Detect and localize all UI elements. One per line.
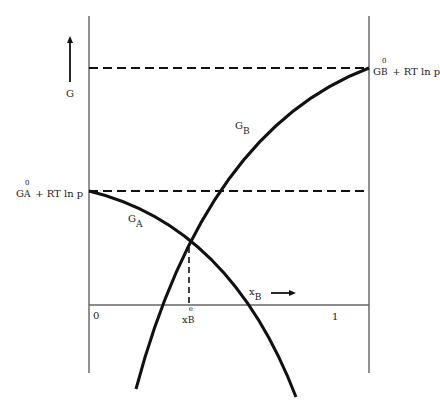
ref-a-suffix: + RT ln p <box>35 188 83 199</box>
ref-a-main: G <box>16 188 24 199</box>
curve-label-g-b: GB <box>235 121 250 131</box>
curve-b-sub: B <box>243 126 250 136</box>
tick-0: 0 <box>93 311 99 321</box>
eq-sup: e <box>189 306 193 313</box>
x-axis-symbol: x <box>249 286 255 297</box>
y-axis-label: G <box>66 89 74 99</box>
ref-b-sub: B <box>381 68 388 77</box>
curve-g-a <box>89 191 296 397</box>
eq-sub: B <box>188 316 195 325</box>
curve-g-b <box>136 68 369 389</box>
curve-label-g-a: GA <box>128 214 143 224</box>
tick-0-text: 0 <box>93 310 99 321</box>
y-axis-symbol: G <box>66 88 74 99</box>
ref-b-sup: 0 <box>382 58 386 65</box>
curve-b-symbol: G <box>235 120 243 131</box>
reference-label-a: G0A + RT ln p <box>16 187 83 199</box>
tick-1: 1 <box>332 312 338 322</box>
tick-1-text: 1 <box>332 311 338 322</box>
curve-a-symbol: G <box>128 213 136 224</box>
curve-a-sub: A <box>136 219 143 229</box>
xb-arrowhead-icon <box>289 290 296 296</box>
ref-a-sup: 0 <box>25 180 29 187</box>
equilibrium-label: xeB <box>182 313 196 325</box>
ref-b-suffix: + RT ln p <box>392 66 440 77</box>
x-axis-label: xB <box>249 287 261 297</box>
g-arrowhead-icon <box>67 36 73 43</box>
x-axis-sub: B <box>255 292 262 302</box>
ref-b-main: G <box>373 66 381 77</box>
reference-label-b: G0B + RT ln p <box>373 65 440 77</box>
ref-a-sub: A <box>24 190 31 199</box>
